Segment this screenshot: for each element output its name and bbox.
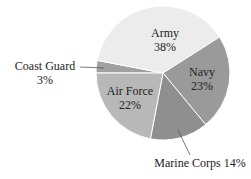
label-army: Army — [151, 26, 179, 40]
pie-chart: Army 38% Navy 23% Air Force 22% Coast Gu… — [0, 0, 251, 179]
label-coast-guard-pct: 3% — [37, 73, 53, 87]
label-coast-guard: Coast Guard — [15, 59, 75, 73]
label-marine-corps: Marine Corps 14% — [154, 156, 245, 170]
label-navy: Navy — [189, 65, 215, 79]
label-army-pct: 38% — [154, 40, 176, 54]
label-air-force: Air Force — [107, 84, 153, 98]
label-navy-pct: 23% — [191, 79, 213, 93]
label-air-force-pct: 22% — [119, 98, 141, 112]
